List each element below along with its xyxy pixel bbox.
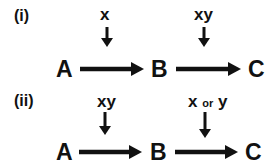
arrow-down-icon xyxy=(198,27,210,47)
arrow-down-icon xyxy=(101,27,113,47)
arrows xyxy=(0,0,274,167)
arrow-right-icon xyxy=(176,62,241,76)
arrow-down-icon xyxy=(99,112,111,135)
arrow-right-icon xyxy=(79,145,142,159)
arrow-down-icon xyxy=(199,112,211,138)
arrow-right-icon xyxy=(175,145,238,159)
arrow-right-icon xyxy=(80,62,144,76)
